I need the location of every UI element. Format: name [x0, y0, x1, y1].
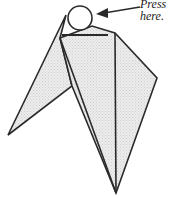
pointer-arrow-icon: [96, 7, 140, 18]
press-point-circle: [68, 6, 92, 30]
origami-fold-diagram: [0, 0, 169, 198]
left-wing-flap: [8, 15, 72, 135]
center-vertical-crease: [115, 33, 116, 193]
press-annotation: Press here.: [140, 0, 166, 22]
body-flap: [60, 26, 157, 193]
annotation-line-2: here.: [140, 10, 166, 22]
